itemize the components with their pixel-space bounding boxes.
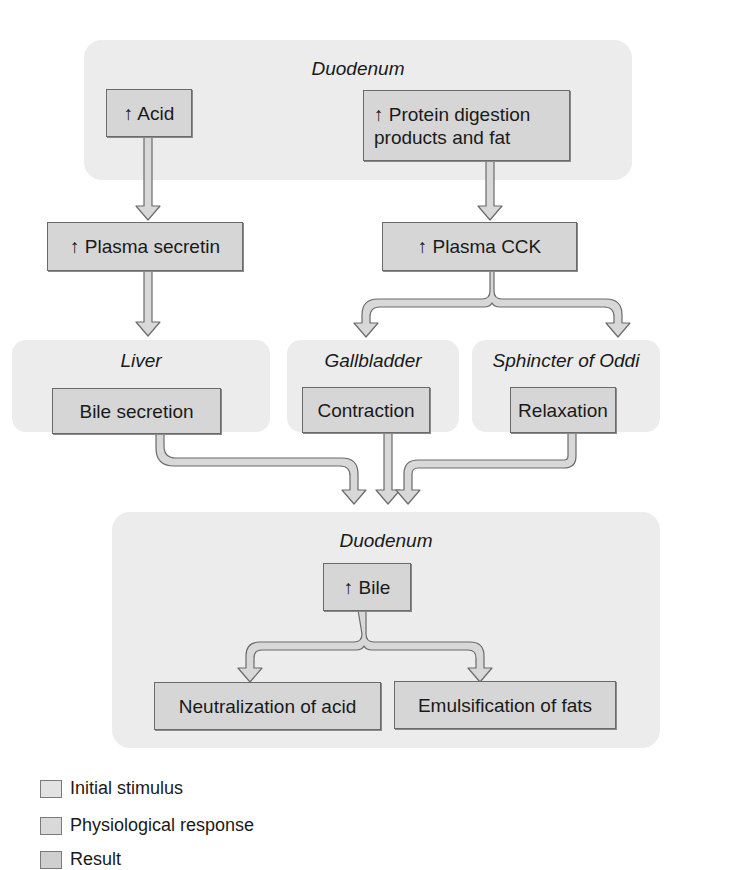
plasma-cck-box: ↑ Plasma CCK: [382, 222, 577, 271]
legend-item-result: Result: [40, 849, 121, 870]
legend-item-initial-stimulus: Initial stimulus: [40, 778, 183, 799]
contraction-box: Contraction: [302, 387, 430, 433]
arrow-liver-to-duodenum: [156, 432, 366, 504]
bile-secretion-box: Bile secretion: [52, 388, 221, 434]
legend-item-physiological-response: Physiological response: [40, 815, 254, 836]
stimulus-protein-fat-box: ↑ Protein digestion products and fat: [363, 90, 570, 161]
legend-swatch-physiological-response: [40, 817, 62, 835]
legend-swatch-result: [40, 851, 62, 869]
arrow-secretin-to-liver: [136, 270, 160, 336]
relaxation-box: Relaxation: [510, 387, 616, 433]
arrow-bile-split: [238, 610, 492, 682]
legend-label: Result: [70, 849, 121, 870]
neutralization-of-acid-box: Neutralization of acid: [154, 682, 381, 730]
arrow-acid-to-secretin: [136, 136, 160, 220]
arrow-sphincter-to-duodenum: [396, 432, 576, 504]
legend-label: Initial stimulus: [70, 778, 183, 799]
legend-swatch-initial-stimulus: [40, 780, 62, 798]
arrow-cck-split: [354, 270, 630, 337]
arrow-gallbladder-to-duodenum: [376, 432, 400, 504]
stimulus-acid-box: ↑ Acid: [106, 89, 192, 137]
plasma-secretin-box: ↑ Plasma secretin: [47, 222, 243, 271]
arrow-protein-to-cck: [478, 160, 502, 220]
bile-box: ↑ Bile: [323, 563, 411, 611]
legend-label: Physiological response: [70, 815, 254, 836]
emulsification-of-fats-box: Emulsification of fats: [394, 681, 616, 729]
